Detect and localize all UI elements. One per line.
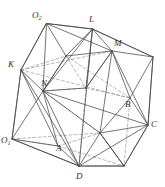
vertex-label-K: K bbox=[8, 60, 14, 69]
hidden-edges-group bbox=[12, 29, 130, 166]
vertex-label-N: N bbox=[41, 79, 47, 88]
vertex-label-O1: O1 bbox=[1, 136, 11, 145]
vertex-label-O2: O2 bbox=[32, 11, 42, 20]
vertex-label-L: L bbox=[89, 15, 94, 24]
vertex-label-B: B bbox=[125, 100, 131, 109]
vertex-label-D: D bbox=[76, 172, 83, 181]
geometry-figure: O2 L M K N B C O1 A D bbox=[0, 0, 165, 187]
polyhedron-drawing bbox=[0, 0, 165, 187]
vertex-label-C: C bbox=[151, 120, 157, 129]
vertex-label-A: A bbox=[56, 144, 62, 153]
visible-edges-group bbox=[12, 24, 153, 167]
vertex-label-M: M bbox=[114, 39, 122, 48]
